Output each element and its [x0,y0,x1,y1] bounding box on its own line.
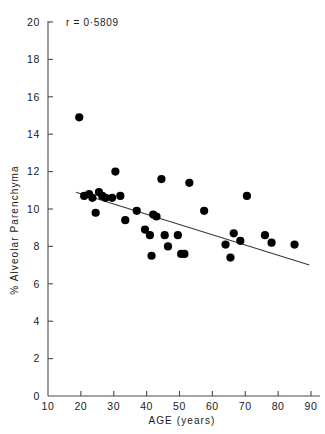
y-tick-label: 8 [34,240,40,252]
x-tick-label: 40 [140,400,153,412]
scatter-plot: 02468101214161820102030405060708090 AGE … [0,0,325,434]
y-tick-label: 2 [34,352,40,364]
data-point [161,231,169,239]
data-point [261,231,269,239]
y-tick-label: 20 [27,16,40,28]
x-tick-label: 10 [42,400,55,412]
x-tick-label: 60 [206,400,219,412]
data-point [146,231,154,239]
data-point [200,207,208,215]
y-tick-label: 18 [27,53,40,65]
data-point [108,194,116,202]
y-tick-label: 4 [34,315,40,327]
x-tick-label: 30 [107,400,120,412]
y-tick-label: 0 [34,390,40,402]
y-tick-label: 14 [27,128,40,140]
tick-labels-group: 02468101214161820102030405060708090 [27,16,317,412]
data-point [230,229,238,237]
data-point [75,113,83,121]
data-point [121,216,129,224]
x-tick-label: 20 [74,400,87,412]
x-tick-label: 50 [173,400,186,412]
x-tick-label: 80 [272,400,285,412]
data-point [147,252,155,260]
data-point [180,250,188,258]
data-point [133,207,141,215]
data-point [185,179,193,187]
x-tick-label: 70 [239,400,252,412]
data-point [221,240,229,248]
data-point [88,194,96,202]
data-points-group [75,113,299,261]
y-tick-label: 12 [27,165,40,177]
axes-group [48,21,320,396]
y-tick-label: 6 [34,278,40,290]
data-point [116,192,124,200]
correlation-annotation: r = 0·5809 [66,17,119,28]
regression-line [76,192,309,265]
data-point [290,240,298,248]
regression-line-segment [76,192,309,265]
data-point [157,175,165,183]
data-point [152,212,160,220]
data-point [267,239,275,247]
data-point [164,242,172,250]
data-point [92,209,100,217]
x-tick-label: 90 [305,400,318,412]
data-point [174,231,182,239]
y-tick-label: 16 [27,91,40,103]
y-axis-label: % Alveolar Parenchyma [9,165,20,294]
y-tick-label: 10 [27,203,40,215]
data-point [226,254,234,262]
data-point [243,192,251,200]
data-point [111,168,119,176]
data-point [236,237,244,245]
x-axis-label: AGE (years) [148,415,215,426]
